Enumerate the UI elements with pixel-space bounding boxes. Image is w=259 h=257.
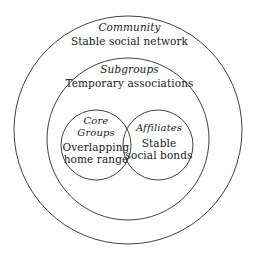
core-groups-description-line-1: Overlapping bbox=[62, 141, 130, 153]
community-label: Community Stable social network bbox=[0, 21, 259, 48]
core-groups-description-line-2: home range bbox=[62, 153, 130, 165]
core-groups-title-line-2: Groups bbox=[62, 127, 130, 139]
affiliates-description-line-2: social bonds bbox=[125, 149, 193, 161]
subgroups-description: Temporary associations bbox=[0, 77, 259, 89]
core-groups-title-line-1: Core bbox=[62, 115, 130, 127]
subgroups-title: Subgroups bbox=[0, 63, 259, 75]
affiliates-title: Affiliates bbox=[125, 122, 193, 134]
affiliates-description-line-1: Stable bbox=[125, 137, 193, 149]
diagram-canvas: Community Stable social network Subgroup… bbox=[0, 0, 259, 257]
community-description: Stable social network bbox=[0, 35, 259, 47]
community-title: Community bbox=[0, 21, 259, 33]
affiliates-label: Affiliates Stable social bonds bbox=[125, 122, 193, 162]
core-groups-label: Core Groups Overlapping home range bbox=[62, 115, 130, 165]
subgroups-label: Subgroups Temporary associations bbox=[0, 63, 259, 90]
